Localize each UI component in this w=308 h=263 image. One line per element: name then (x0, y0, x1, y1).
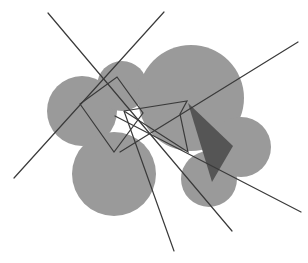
geometry-figure (0, 0, 308, 263)
disc-bottom-left-large (72, 132, 156, 216)
figure-canvas (0, 0, 308, 263)
